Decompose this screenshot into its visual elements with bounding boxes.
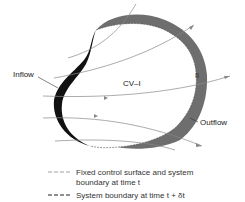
region-ii-outflow bbox=[96, 15, 207, 149]
legend-text: System boundary at time t + δt bbox=[76, 191, 185, 201]
cv-label: CV–I bbox=[123, 80, 141, 88]
inflow-label: Inflow bbox=[13, 71, 34, 79]
legend-text: Fixed control surface and system bbox=[76, 168, 193, 178]
outflow-label: Outflow bbox=[200, 119, 227, 127]
legend-item-fixed-surface: Fixed control surface and system boundar… bbox=[76, 168, 193, 188]
region-inflow bbox=[54, 30, 96, 146]
legend-text: boundary at time t bbox=[76, 178, 140, 188]
inflow-leader bbox=[38, 77, 58, 88]
flow-arrows bbox=[94, 25, 230, 147]
legend-item-system-boundary: System boundary at time t + δt bbox=[76, 191, 185, 201]
region-ii-label: II bbox=[195, 72, 199, 79]
